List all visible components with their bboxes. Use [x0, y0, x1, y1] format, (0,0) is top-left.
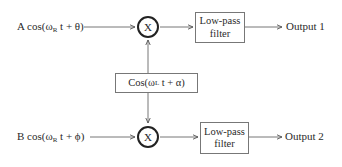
top-lowpass-filter: Low-pass filter [195, 12, 245, 43]
bottom-lowpass-filter: Low-pass filter [200, 122, 249, 154]
top-filter-line2: filter [210, 28, 230, 40]
top-filter-line1: Low-pass [200, 15, 241, 27]
top-input-label: A cos(ωR t + θ) [17, 21, 84, 34]
top-multiplier-symbol: X [144, 21, 152, 33]
bottom-input-suffix: t + ϕ) [57, 130, 84, 142]
top-input-prefix: A cos(ω [17, 20, 53, 32]
bottom-filter-line2: filter [214, 138, 234, 150]
bottom-multiplier-symbol: X [144, 131, 152, 143]
bottom-input-label: B cos(ωR t + ϕ) [17, 131, 84, 144]
bottom-filter-line1: Low-pass [204, 126, 245, 138]
output-1-label: Output 1 [286, 21, 325, 32]
bottom-multiplier: X [137, 126, 159, 148]
oscillator-suffix: t + α) [159, 77, 185, 89]
top-input-suffix: t + θ) [57, 20, 83, 32]
local-oscillator: Cos(ωL t + α) [115, 73, 198, 93]
output-2-label: Output 2 [285, 131, 324, 142]
oscillator-prefix: Cos(ω [128, 77, 155, 89]
bottom-input-prefix: B cos(ω [17, 130, 53, 142]
top-multiplier: X [137, 16, 159, 38]
